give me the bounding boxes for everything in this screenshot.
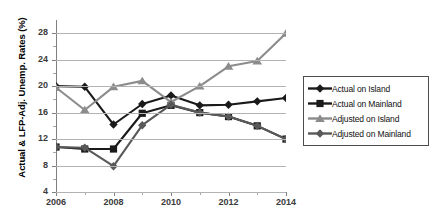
- legend-item-actual-on-mainland: Actual on Mainland: [307, 96, 426, 111]
- gridline: [56, 86, 286, 87]
- gridline: [56, 33, 286, 34]
- legend-item-actual-on-island: Actual on Island: [307, 81, 426, 96]
- y-tick-label: 12: [26, 133, 48, 143]
- unemployment-rates-line-chart: Actual & LFP-Adj. Unemp. Rates (%) 48121…: [0, 0, 434, 220]
- legend-label: Adjusted on Mainland: [332, 129, 411, 139]
- data-point-marker: [253, 97, 261, 105]
- x-tick-label: 2012: [209, 197, 249, 207]
- series-actual-on-mainland: [56, 102, 286, 153]
- data-point-marker: [137, 77, 147, 85]
- data-point-marker: [110, 145, 117, 152]
- legend-item-adjusted-on-island: Adjusted on Island: [307, 111, 426, 126]
- data-point-marker: [224, 100, 232, 108]
- plot-area: [56, 20, 286, 192]
- x-tick-label: 2014: [266, 197, 306, 207]
- series-line: [56, 105, 286, 149]
- legend-label: Actual on Mainland: [332, 99, 402, 109]
- y-tick-label: 4: [26, 186, 48, 196]
- gridline: [56, 192, 286, 193]
- legend-marker-diamond-icon: [307, 127, 333, 140]
- legend-marker-square-icon: [307, 97, 333, 110]
- x-tick-label: 2008: [94, 197, 134, 207]
- legend-marker-triangle-icon: [307, 112, 333, 125]
- gridline: [56, 113, 286, 114]
- data-point-marker: [196, 101, 204, 109]
- chart-legend: Actual on Island Actual on Mainland Adju…: [303, 76, 429, 146]
- gridline: [56, 139, 286, 140]
- legend-label: Actual on Island: [332, 84, 390, 94]
- gridline: [56, 60, 286, 61]
- y-tick-label: 8: [26, 160, 48, 170]
- y-tick-label: 20: [26, 80, 48, 90]
- legend-item-adjusted-on-mainland: Adjusted on Mainland: [307, 126, 426, 141]
- y-tick-label: 16: [26, 107, 48, 117]
- legend-label: Adjusted on Island: [332, 114, 399, 124]
- legend-marker-diamond-icon: [307, 82, 333, 95]
- y-axis-title: Actual & LFP-Adj. Unemp. Rates (%): [16, 8, 27, 188]
- y-tick-label: 28: [26, 27, 48, 37]
- data-point-marker: [282, 94, 286, 102]
- x-tick-label: 2010: [151, 197, 191, 207]
- x-tick-label: 2006: [36, 197, 76, 207]
- x-tick-mark: [286, 192, 287, 196]
- gridline: [56, 166, 286, 167]
- series-adjusted-on-mainland: [56, 100, 286, 170]
- y-tick-label: 24: [26, 54, 48, 64]
